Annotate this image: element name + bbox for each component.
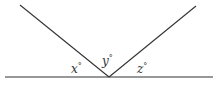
angle-diagram: x° y° z° [0,0,223,88]
right-ray [109,6,196,77]
angle-label-x: x° [71,61,82,76]
angle-label-z: z° [136,61,147,76]
angle-diagram-svg: x° y° z° [0,0,223,88]
left-ray [20,5,109,77]
angle-label-y: y° [101,53,113,68]
